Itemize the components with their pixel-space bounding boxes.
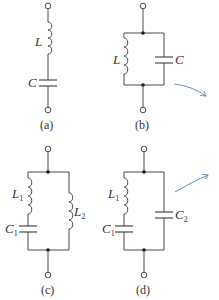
circuit-figure: L C (a) L C (b) bbox=[0, 0, 219, 300]
inductor-L-a bbox=[48, 22, 52, 54]
panel-d: L1 C1 C2 (d) bbox=[102, 146, 208, 297]
caption-c: (c) bbox=[41, 283, 54, 297]
label-C-b: C bbox=[175, 52, 184, 67]
label-L2-c: L2 bbox=[73, 204, 85, 221]
label-C1-d: C1 bbox=[102, 221, 115, 238]
terminal-top-a bbox=[45, 3, 51, 9]
inductor-L2-c bbox=[69, 193, 73, 229]
inductor-L1-c bbox=[28, 178, 32, 214]
pointer-arrow-d bbox=[175, 175, 208, 192]
terminal-bottom-c bbox=[45, 272, 51, 278]
inductor-L1-d bbox=[124, 178, 128, 214]
label-L-b: L bbox=[112, 52, 120, 67]
label-L1-c: L1 bbox=[11, 186, 23, 203]
junction-top-b bbox=[141, 31, 145, 35]
terminal-top-d bbox=[141, 146, 147, 152]
terminal-top-c bbox=[45, 146, 51, 152]
panel-a: L C (a) bbox=[28, 3, 57, 132]
junction-top-d bbox=[142, 170, 146, 174]
terminal-bottom-b bbox=[140, 107, 146, 113]
label-C-a: C bbox=[28, 75, 37, 90]
label-L1-d: L1 bbox=[107, 186, 119, 203]
caption-d: (d) bbox=[136, 283, 150, 297]
label-L-a: L bbox=[34, 34, 42, 49]
panel-c: L1 C1 L2 (c) bbox=[5, 146, 85, 297]
inductor-L-b bbox=[124, 38, 128, 74]
label-C1-c: C1 bbox=[5, 221, 18, 238]
terminal-top-b bbox=[140, 3, 146, 9]
pointer-arrow-b bbox=[174, 84, 206, 96]
caption-b: (b) bbox=[135, 118, 149, 132]
terminal-bottom-d bbox=[141, 272, 147, 278]
panel-b: L C (b) bbox=[112, 3, 206, 132]
label-C2-d: C2 bbox=[175, 207, 188, 224]
junction-top-c bbox=[46, 170, 50, 174]
caption-a: (a) bbox=[40, 118, 53, 132]
terminal-bottom-a bbox=[45, 107, 51, 113]
